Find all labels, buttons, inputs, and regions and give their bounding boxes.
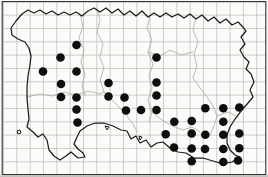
record-dot — [187, 117, 196, 126]
record-dot — [235, 103, 244, 112]
record-dot — [187, 144, 196, 153]
record-dot — [122, 106, 131, 115]
record-dot — [39, 67, 48, 76]
record-dot — [219, 117, 228, 126]
record-dot — [137, 106, 146, 115]
distribution-map-figure — [0, 0, 268, 177]
record-dot — [152, 91, 161, 100]
record-dot — [170, 143, 179, 152]
record-dot — [120, 93, 129, 102]
record-dot — [219, 158, 228, 167]
paper-background — [0, 0, 268, 177]
record-dot — [56, 53, 65, 62]
record-dot — [201, 145, 210, 154]
record-dot — [152, 106, 161, 115]
scan-edge-shading — [0, 175, 268, 177]
record-dot — [72, 93, 81, 102]
record-dot — [187, 157, 196, 166]
record-dot — [73, 118, 82, 127]
record-dot — [104, 79, 113, 88]
record-dot — [219, 130, 228, 139]
distribution-map-svg — [0, 0, 268, 177]
record-dot — [235, 144, 244, 153]
record-dot — [161, 130, 170, 139]
record-dot — [72, 67, 81, 76]
record-dot — [201, 130, 210, 139]
record-dot — [235, 129, 244, 138]
record-dot — [72, 41, 81, 50]
record-dot — [201, 104, 210, 113]
record-dot — [152, 78, 161, 87]
record-dot — [219, 104, 228, 113]
record-dot — [57, 93, 66, 102]
record-dot — [219, 145, 228, 154]
record-dot — [170, 117, 179, 126]
record-dot — [104, 92, 113, 101]
record-dot — [152, 53, 161, 62]
record-dot — [72, 105, 81, 114]
record-dot — [234, 156, 243, 165]
record-dot — [57, 80, 66, 89]
record-dot — [187, 129, 196, 138]
